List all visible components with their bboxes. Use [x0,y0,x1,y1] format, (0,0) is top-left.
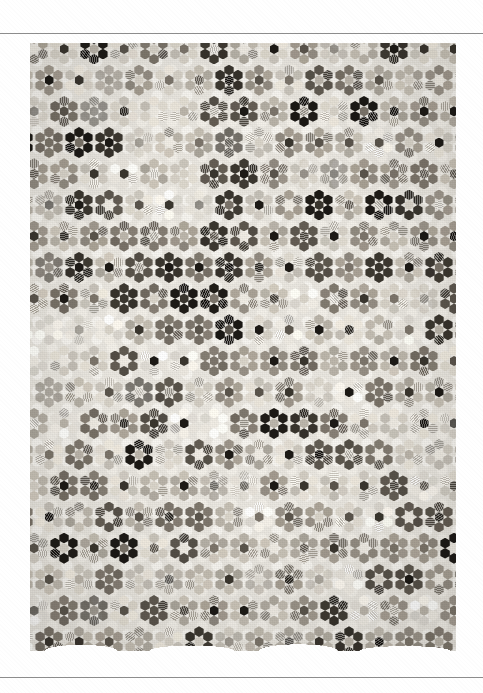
petal-hexagon [353,454,362,465]
petal-hexagon [185,70,194,81]
petal-hexagon [425,267,434,278]
petal-hexagon [395,267,404,278]
petal-hexagon [404,65,413,76]
flower-rosette [30,535,47,561]
petal-hexagon [158,351,167,362]
petal-hexagon [119,533,128,544]
petal-hexagon [143,195,152,206]
petal-hexagon [260,475,269,486]
petal-hexagon [383,142,392,153]
center-hexagon [435,262,444,272]
petal-hexagon [95,517,104,528]
petal-hexagon [188,486,197,497]
petal-hexagon [365,319,374,330]
petal-hexagon [83,382,92,393]
flower-rosette [36,317,62,343]
flower-rosette [30,43,47,62]
petal-hexagon [140,423,149,434]
flower-rosette [51,598,77,624]
petal-hexagon [338,288,347,299]
petal-hexagon [215,142,224,153]
petal-hexagon [260,423,269,434]
petal-hexagon [428,486,437,497]
petal-hexagon [239,96,248,107]
petal-hexagon [200,351,209,362]
center-hexagon [390,418,399,428]
flower-rosette [156,442,182,468]
petal-hexagon [440,600,449,611]
petal-hexagon [140,111,149,122]
petal-hexagon [353,267,362,278]
petal-hexagon [203,330,212,341]
petal-hexagon [104,127,113,138]
petal-hexagon [179,221,188,232]
petal-hexagon [230,538,239,549]
petal-hexagon [74,564,83,575]
center-hexagon [210,294,219,304]
center-hexagon [450,44,457,54]
petal-hexagon [305,517,314,528]
petal-hexagon [203,569,212,580]
petal-hexagon [323,267,332,278]
center-hexagon [75,138,84,148]
petal-hexagon [278,486,287,497]
petal-hexagon [200,610,209,621]
petal-hexagon [374,564,383,575]
petal-hexagon [308,423,317,434]
petal-hexagon [308,351,317,362]
center-hexagon [315,574,324,584]
petal-hexagon [443,330,452,341]
flower-rosette [261,223,287,249]
center-hexagon [195,387,204,397]
petal-hexagon [218,111,227,122]
petal-hexagon [98,101,107,112]
petal-hexagon [395,132,404,143]
petal-hexagon [245,267,254,278]
petal-hexagon [380,236,389,247]
petal-hexagon [443,205,452,216]
flower-rosette [36,379,62,405]
petal-hexagon [188,610,197,621]
center-hexagon [75,200,84,210]
petal-hexagon [173,517,182,528]
center-hexagon [165,512,174,522]
petal-hexagon [455,392,456,403]
petal-hexagon [203,507,212,518]
petal-hexagon [80,423,89,434]
petal-hexagon [95,267,104,278]
petal-hexagon [203,132,212,143]
petal-hexagon [35,205,44,216]
petal-hexagon [290,43,299,49]
petal-hexagon [365,454,374,465]
flower-rosette [291,535,317,561]
petal-hexagon [419,346,428,357]
center-hexagon [345,574,354,584]
flower-rosette [336,504,362,530]
petal-hexagon [140,163,149,174]
center-hexagon [360,169,369,179]
center-hexagon [330,106,339,116]
petal-hexagon [350,610,359,621]
center-hexagon [195,325,204,335]
petal-hexagon [443,80,452,91]
petal-hexagon [308,226,317,237]
petal-hexagon [305,267,314,278]
petal-hexagon [203,70,212,81]
flower-rosette [36,130,62,156]
flower-rosette [321,161,347,187]
petal-hexagon [440,163,449,174]
center-hexagon [405,387,414,397]
flower-rosette [51,223,77,249]
center-hexagon [150,606,159,616]
flower-rosette [246,130,272,156]
petal-hexagon [230,101,239,112]
petal-hexagon [125,195,134,206]
center-hexagon [285,262,294,272]
petal-hexagon [185,579,194,590]
flower-rosette [306,130,332,156]
petal-hexagon [128,610,137,621]
petal-hexagon [299,533,308,544]
petal-hexagon [68,298,77,309]
petal-hexagon [338,49,347,60]
petal-hexagon [128,174,137,185]
